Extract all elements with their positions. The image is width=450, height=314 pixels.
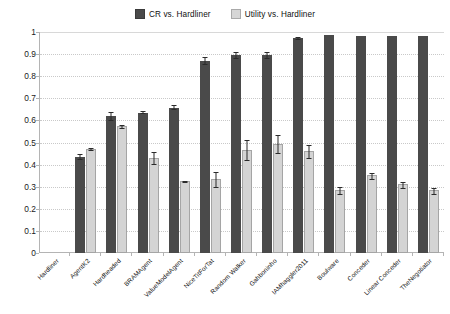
legend-entry-cr: CR vs. Hardliner [135, 9, 211, 19]
bar-group [351, 32, 382, 253]
bar-utility [149, 158, 159, 253]
x-axis-labels: HardlinerAgentK2HardheadedBRAMAgentValue… [39, 253, 444, 314]
y-tick-label: 0.8 [2, 71, 36, 81]
error-bar [89, 148, 94, 151]
bar-group [164, 32, 195, 253]
error-bar [202, 57, 207, 65]
y-tick-label: 0.5 [2, 138, 36, 148]
error-bar [213, 172, 218, 187]
bar-chart: CR vs. Hardliner Utility vs. Hardliner 0… [0, 0, 450, 314]
error-bar [369, 173, 374, 180]
error-bar [276, 135, 281, 154]
legend-label-cr: CR vs. Hardliner [149, 10, 211, 19]
bar-cr [169, 108, 179, 253]
bar-group [382, 32, 413, 253]
error-bar [431, 188, 436, 195]
y-tick-label: 0.4 [2, 160, 36, 170]
bar-cr [418, 36, 428, 253]
bar-group [413, 32, 444, 253]
bar-cr [387, 36, 397, 253]
legend-swatch-cr-icon [135, 9, 145, 19]
error-bar [400, 182, 405, 189]
error-bar [338, 187, 343, 194]
bar-cr [231, 55, 241, 253]
y-tick-label: 0.2 [2, 204, 36, 214]
bar-cr [262, 55, 272, 253]
y-tick-label: 1 [2, 27, 36, 37]
bars-layer [39, 32, 444, 253]
bar-utility [335, 190, 345, 253]
error-bar [120, 125, 125, 129]
bar-group [70, 32, 101, 253]
error-bar [171, 105, 176, 110]
bar-utility [180, 181, 190, 253]
y-tick-label: 0.7 [2, 93, 36, 103]
bar-utility [273, 144, 283, 253]
error-bar [109, 112, 114, 122]
bar-group [319, 32, 350, 253]
error-bar [182, 181, 187, 183]
bar-utility [242, 150, 252, 253]
bar-utility [86, 149, 96, 253]
legend-label-utility: Utility vs. Hardliner [245, 10, 315, 19]
error-bar [140, 111, 145, 114]
y-tick-label: 0.3 [2, 182, 36, 192]
bar-utility [367, 175, 377, 253]
error-bar [296, 37, 301, 40]
legend-entry-utility: Utility vs. Hardliner [231, 9, 315, 19]
bar-cr [356, 36, 366, 253]
bar-cr [106, 116, 116, 253]
bar-utility [304, 151, 314, 253]
y-tick-label: 0 [2, 248, 36, 258]
y-tick-label: 0.9 [2, 49, 36, 59]
chart-legend: CR vs. Hardliner Utility vs. Hardliner [0, 9, 450, 19]
bar-utility [117, 126, 127, 253]
y-tick-label: 0.1 [2, 226, 36, 236]
bar-group [288, 32, 319, 253]
bar-group [39, 32, 70, 253]
bar-cr [138, 113, 148, 253]
error-bar [307, 145, 312, 158]
bar-group [101, 32, 132, 253]
error-bar [245, 140, 250, 161]
legend-swatch-utility-icon [231, 9, 241, 19]
bar-group [226, 32, 257, 253]
bar-cr [200, 61, 210, 253]
bar-utility [398, 184, 408, 253]
bar-group [132, 32, 163, 253]
bar-group [195, 32, 226, 253]
error-bar [151, 152, 156, 165]
bar-utility [429, 190, 439, 253]
y-tick-label: 0.6 [2, 115, 36, 125]
bar-group [257, 32, 288, 253]
error-bar [234, 52, 239, 59]
error-bar [265, 52, 270, 59]
bar-cr [293, 38, 303, 253]
bar-utility [211, 179, 221, 253]
bar-cr [75, 157, 85, 253]
x-tick-label: Hardliner [0, 257, 60, 314]
bar-cr [324, 35, 334, 253]
error-bar [78, 154, 83, 159]
